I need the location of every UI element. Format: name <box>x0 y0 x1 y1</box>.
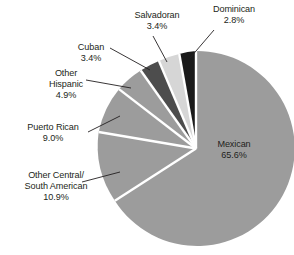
slice-label-mexican-name: Mexican <box>217 139 250 149</box>
slice-label-dominican: Dominican 2.8% <box>196 4 272 26</box>
leader-line-salvadoran <box>153 36 167 62</box>
slice-label-salvadoran-name: Salvadoran <box>134 10 179 20</box>
slice-label-other-central-line2: South American <box>0 181 112 192</box>
slice-label-puerto-rican: Puerto Rican 9.0% <box>6 122 100 144</box>
slice-label-other-hispanic-name-line2: Hispanic <box>28 79 104 90</box>
slice-label-dominican-name: Dominican <box>213 4 255 14</box>
slice-label-dominican-percent: 2.8% <box>196 15 272 26</box>
slice-label-cuban-percent: 3.4% <box>60 53 122 64</box>
slice-label-mexican: Mexican 65.6% <box>206 139 262 161</box>
slice-label-other-hispanic-percent: 4.9% <box>28 90 104 101</box>
slice-label-mexican-percent: 65.6% <box>206 150 262 161</box>
slice-label-other-central-south-american: Other Central/ South American 10.9% <box>0 170 112 204</box>
slice-label-other-central-percent: 10.9% <box>0 192 112 203</box>
slice-label-other-hispanic: Other Hispanic 4.9% <box>28 68 104 102</box>
pie-chart: Salvadoran 3.4% Dominican 2.8% Cuban 3.4… <box>0 0 294 255</box>
slice-label-puerto-rican-percent: 9.0% <box>6 133 100 144</box>
slice-label-cuban: Cuban 3.4% <box>60 42 122 64</box>
slice-label-salvadoran-percent: 3.4% <box>120 21 194 32</box>
slice-label-salvadoran: Salvadoran 3.4% <box>120 10 194 32</box>
slice-label-other-hispanic-name-line1: Other <box>55 68 77 78</box>
slice-label-cuban-name: Cuban <box>78 42 104 52</box>
slice-label-puerto-rican-name: Puerto Rican <box>27 122 78 132</box>
slice-label-other-central-line1: Other Central/ <box>28 170 84 180</box>
